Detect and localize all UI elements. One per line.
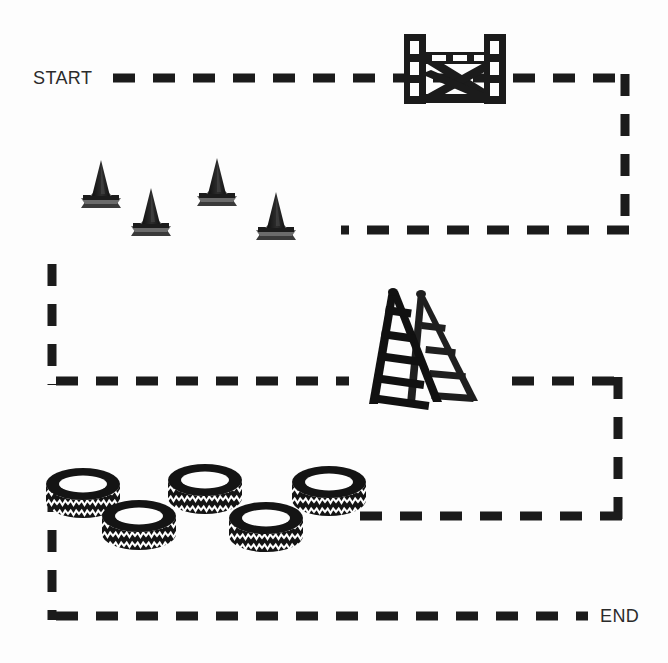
barrier-right-post — [484, 34, 506, 104]
tire-icon — [292, 466, 366, 516]
traffic-cone-icon — [131, 188, 171, 236]
barrier-left-post — [404, 34, 426, 104]
tire-icon — [168, 464, 242, 514]
ladder-hinge-front — [388, 288, 398, 296]
tire-icon — [102, 500, 176, 550]
step-ladder-obstacle — [369, 288, 478, 410]
tire-icon — [229, 502, 303, 552]
cone-group — [81, 158, 296, 240]
end-label: END — [600, 606, 639, 626]
traffic-cone-icon — [256, 192, 296, 240]
ladder-hinge-back — [416, 290, 426, 298]
traffic-cone-icon — [81, 160, 121, 208]
barrier-obstacle — [404, 34, 506, 104]
course-canvas: START END — [0, 0, 668, 663]
start-label: START — [33, 68, 92, 88]
traffic-cone-icon — [197, 158, 237, 206]
obstacle-course-diagram: START END — [0, 0, 668, 663]
tire-group — [46, 464, 366, 552]
